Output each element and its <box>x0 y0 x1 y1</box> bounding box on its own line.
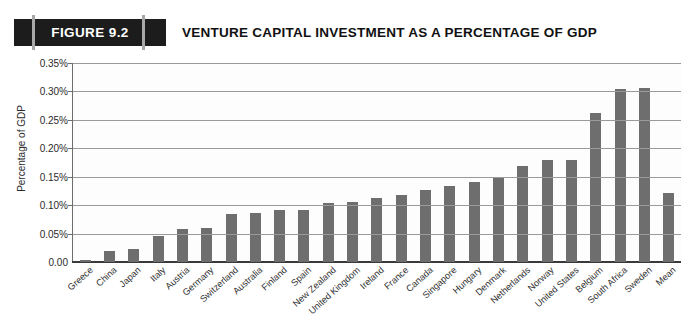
bar <box>639 88 650 262</box>
x-label-slot: Italy <box>152 263 163 329</box>
x-label-slot: Australia <box>249 263 260 329</box>
x-axis-tick-labels: GreeceChinaJapanItalyAustriaGermanySwitz… <box>72 263 680 329</box>
bar <box>517 166 528 262</box>
y-axis-tickmark <box>68 177 73 178</box>
x-tick-label: Japan <box>118 265 143 289</box>
x-label-slot: Netherlands <box>516 263 527 329</box>
x-tick-label: Finland <box>260 265 289 293</box>
x-tick-label: Italy <box>148 265 167 284</box>
figure-title: VENTURE CAPITAL INVESTMENT AS A PERCENTA… <box>182 25 597 40</box>
x-tick-label: China <box>94 265 119 289</box>
y-axis-tickmark <box>68 205 73 206</box>
x-label-slot: Mean <box>662 263 673 329</box>
bar <box>153 236 164 262</box>
y-axis-tickmark <box>68 120 73 121</box>
gridline <box>73 177 681 178</box>
x-label-slot: Singapore <box>443 263 454 329</box>
x-label-slot: South Africa <box>614 263 625 329</box>
x-label-slot: Switzerland <box>225 263 236 329</box>
bar <box>347 202 358 262</box>
x-tick-label: Greece <box>65 265 94 293</box>
gridline <box>73 205 681 206</box>
y-axis-tickmark <box>68 234 73 235</box>
bar <box>226 214 237 262</box>
bar <box>444 186 455 262</box>
x-label-slot: Greece <box>79 263 90 329</box>
y-tick-label: 0.05% <box>40 228 68 239</box>
gridline <box>73 91 681 92</box>
x-tick-label: Ireland <box>359 265 387 291</box>
y-tick-label: 0.00 <box>49 257 68 268</box>
bracket-tick-right-icon <box>142 15 145 50</box>
x-label-slot: Finland <box>273 263 284 329</box>
bar <box>128 249 139 262</box>
gridline <box>73 120 681 121</box>
x-label-slot: Japan <box>127 263 138 329</box>
bar <box>250 213 261 262</box>
bar-series <box>73 63 681 262</box>
bar <box>663 193 674 262</box>
bar <box>80 260 91 262</box>
bar <box>371 198 382 262</box>
bar <box>542 160 553 262</box>
bracket-tick-left-icon <box>32 15 35 50</box>
x-label-slot: United Kingdom <box>346 263 357 329</box>
bar <box>274 210 285 262</box>
figure-number-label: FIGURE 9.2 <box>51 25 129 40</box>
bar <box>590 113 601 262</box>
gridline <box>73 148 681 149</box>
figure-page: FIGURE 9.2 VENTURE CAPITAL INVESTMENT AS… <box>0 0 699 329</box>
x-label-slot: China <box>103 263 114 329</box>
y-tick-label: 0.25% <box>40 114 68 125</box>
figure-number-badge: FIGURE 9.2 <box>14 19 166 46</box>
y-axis-title: Percentage of GDP <box>16 84 27 214</box>
gridline <box>73 63 681 64</box>
x-tick-label: Mean <box>654 265 678 288</box>
x-label-slot: Sweden <box>638 263 649 329</box>
bar <box>493 178 504 262</box>
y-axis-tickmark <box>68 148 73 149</box>
bar <box>615 89 626 262</box>
y-tick-label: 0.35% <box>40 58 68 69</box>
figure-header: FIGURE 9.2 VENTURE CAPITAL INVESTMENT AS… <box>0 17 699 47</box>
chart-container: Percentage of GDP 0.35%0.30%0.25%0.20%0.… <box>0 47 699 329</box>
gridline <box>73 234 681 235</box>
y-tick-label: 0.10% <box>40 200 68 211</box>
bar <box>469 182 480 262</box>
x-label-slot: Hungary <box>468 263 479 329</box>
x-label-slot: United States <box>565 263 576 329</box>
y-tick-label: 0.20% <box>40 143 68 154</box>
y-axis-tickmark <box>68 91 73 92</box>
y-axis-tick-labels: 0.35%0.30%0.25%0.20%0.15%0.10%0.05%0.00 <box>28 47 68 269</box>
y-tick-label: 0.15% <box>40 171 68 182</box>
y-tick-label: 0.30% <box>40 86 68 97</box>
x-label-slot: Ireland <box>370 263 381 329</box>
plot-area <box>72 63 681 262</box>
bar <box>298 210 309 262</box>
bar <box>104 251 115 262</box>
bar <box>323 203 334 262</box>
y-axis-tickmark <box>68 63 73 64</box>
x-label-slot: France <box>395 263 406 329</box>
bar <box>566 160 577 262</box>
bar <box>420 190 431 262</box>
